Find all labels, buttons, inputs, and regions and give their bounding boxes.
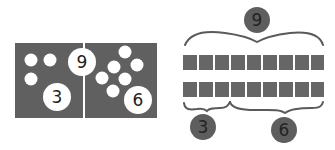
part-label-bottom-right: 6: [279, 120, 290, 140]
dot: [96, 72, 109, 85]
tile-row-top: [183, 55, 324, 70]
tile: [263, 55, 277, 70]
dot: [119, 73, 132, 86]
total-label: 9: [77, 52, 88, 72]
tile: [295, 55, 309, 70]
dot: [44, 54, 57, 67]
part-label-right: 6: [133, 90, 144, 110]
number-bond-diagram: 9 3 6 9: [0, 0, 335, 150]
tile: [311, 55, 324, 70]
bottom-brace-left: [184, 102, 230, 111]
tile: [247, 55, 261, 70]
dot: [108, 61, 121, 74]
dot: [119, 46, 132, 59]
bottom-brace-right: [230, 102, 323, 113]
tile: [295, 82, 309, 97]
tile: [231, 82, 245, 97]
total-label-top: 9: [252, 10, 263, 30]
tile: [215, 82, 229, 97]
tile: [263, 82, 277, 97]
tile: [231, 55, 245, 70]
domino-panel: 9 3 6: [15, 43, 157, 118]
tile-row-bottom: [183, 82, 324, 97]
tile-model: 9: [183, 7, 324, 143]
dot: [25, 73, 38, 86]
part-label-bottom-left: 3: [198, 117, 209, 137]
part-label-left: 3: [52, 87, 63, 107]
dot: [107, 85, 120, 98]
top-brace: [185, 32, 323, 45]
tile: [311, 82, 324, 97]
tile: [279, 82, 293, 97]
dot: [25, 54, 38, 67]
dot: [131, 59, 144, 72]
tile: [199, 55, 213, 70]
tile: [279, 55, 293, 70]
tile: [247, 82, 261, 97]
tile: [183, 55, 197, 70]
tile: [199, 82, 213, 97]
tile: [215, 55, 229, 70]
tile: [183, 82, 197, 97]
